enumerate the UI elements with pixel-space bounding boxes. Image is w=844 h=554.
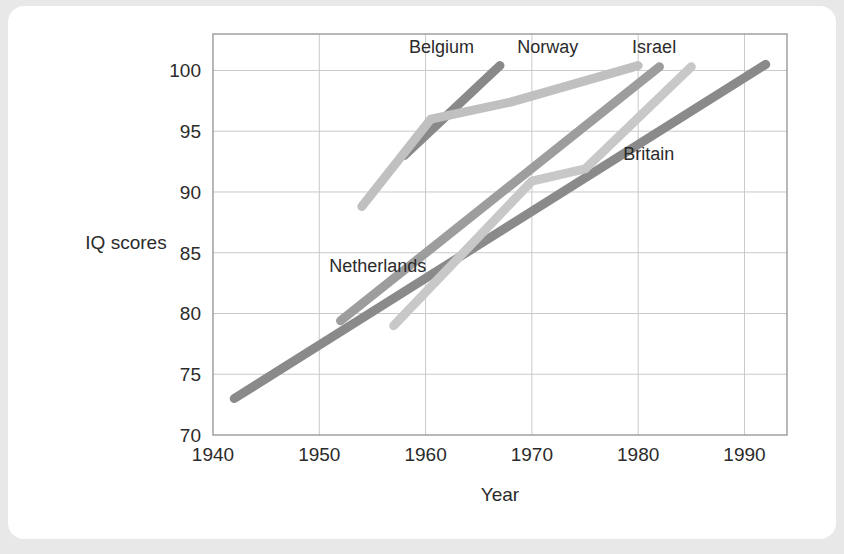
- y-tick-label-80: 80: [180, 303, 201, 324]
- x-axis-title: Year: [481, 484, 520, 505]
- x-tick-label-1970: 1970: [511, 444, 553, 465]
- x-tick-label-1980: 1980: [617, 444, 659, 465]
- x-tick-label-1960: 1960: [404, 444, 446, 465]
- series-label-belgium: Belgium: [409, 37, 474, 57]
- y-tick-label-100: 100: [169, 60, 201, 81]
- series-label-britain: Britain: [623, 144, 674, 164]
- y-axis-title: IQ scores: [85, 232, 166, 253]
- y-tick-label-70: 70: [180, 425, 201, 446]
- x-tick-label-1940: 1940: [192, 444, 234, 465]
- iq-scores-line-chart: 707580859095100194019501960197019801990I…: [8, 6, 836, 539]
- y-tick-label-85: 85: [180, 243, 201, 264]
- y-tick-label-95: 95: [180, 121, 201, 142]
- series-label-netherlands: Netherlands: [329, 256, 426, 276]
- y-tick-label-90: 90: [180, 182, 201, 203]
- series-label-israel: Israel: [632, 37, 676, 57]
- chart-card: 707580859095100194019501960197019801990I…: [8, 6, 836, 539]
- series-label-norway: Norway: [517, 37, 578, 57]
- chart-svg: 707580859095100194019501960197019801990I…: [8, 6, 836, 539]
- x-tick-label-1990: 1990: [723, 444, 765, 465]
- y-tick-label-75: 75: [180, 364, 201, 385]
- series-line-norway: [362, 66, 638, 207]
- series-line-israel: [394, 67, 692, 326]
- series-line-britain: [234, 64, 765, 398]
- x-tick-label-1950: 1950: [298, 444, 340, 465]
